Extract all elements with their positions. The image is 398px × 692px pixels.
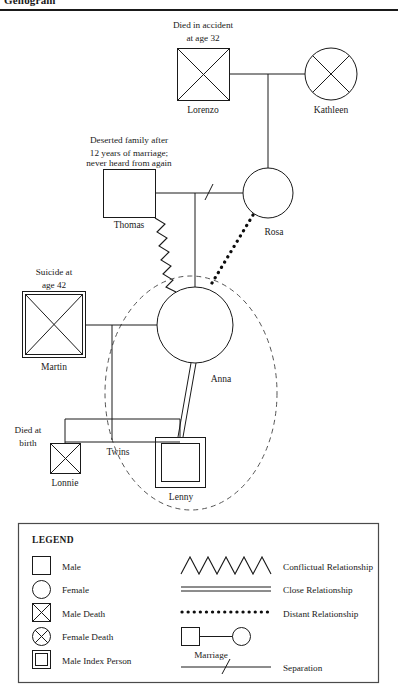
legend-item-conflictual-relationship: Conflictual Relationship xyxy=(181,557,373,574)
legend-item-label: Male Index Person xyxy=(62,656,132,666)
circle-icon xyxy=(157,287,233,363)
legend-item-label: Female Death xyxy=(62,632,114,642)
person-label: Anna xyxy=(211,374,232,384)
legend-item-marriage: Marriage xyxy=(182,628,251,661)
person-note-line: age 42 xyxy=(42,280,67,290)
legend-item-label: Male Death xyxy=(62,609,106,619)
square-icon xyxy=(33,557,51,575)
legend-item-female: Female xyxy=(33,581,90,599)
double-square-icon-inner xyxy=(162,444,200,482)
genogram-page: Genogram Died in accident at age 32 Lore… xyxy=(0,0,398,692)
zigzag-line-icon xyxy=(181,557,271,574)
double-square-icon-inner xyxy=(36,654,48,666)
person-label: Rosa xyxy=(265,227,285,237)
legend-item-separation: Separation xyxy=(181,659,323,674)
dotted-line-icon-rosa-anna xyxy=(209,215,253,288)
person-label: Lenny xyxy=(169,492,194,502)
legend-item-close-relationship: Close Relationship xyxy=(181,585,353,595)
person-label: Martin xyxy=(41,362,67,372)
legend-item-distant-relationship: Distant Relationship xyxy=(182,609,359,619)
circle-icon xyxy=(33,581,51,599)
person-note-line: never heard from again xyxy=(86,158,172,168)
legend-item-label: Female xyxy=(62,585,89,595)
legend-title: LEGEND xyxy=(32,535,74,545)
person-note-line: 12 years of marriage; xyxy=(90,148,168,158)
person-note-line: at age 32 xyxy=(186,33,220,43)
person-rosa: Rosa xyxy=(243,168,293,237)
person-note-line: Suicide at xyxy=(36,267,73,277)
person-martin: Suicide at age 42 Martin xyxy=(23,267,86,372)
circle-icon xyxy=(243,168,293,218)
person-lenny: Lenny xyxy=(156,438,206,503)
circle-icon xyxy=(233,628,251,646)
person-lorenzo: Died in accident at age 32 Lorenzo xyxy=(173,20,234,115)
person-note-line: Died at xyxy=(15,425,42,435)
person-lonnie: Died at birth Lonnie xyxy=(15,425,81,488)
person-thomas: Deserted family after 12 years of marria… xyxy=(86,135,172,230)
legend-item-male-death: Male Death xyxy=(33,604,106,622)
person-label: Lorenzo xyxy=(187,105,219,115)
separation-slash-icon xyxy=(205,184,213,200)
person-note-line: birth xyxy=(19,438,37,448)
twins-annotation: Twins xyxy=(106,447,129,457)
legend-item-male-index-person: Male Index Person xyxy=(33,651,132,669)
person-label: Thomas xyxy=(114,220,145,230)
person-note-line: Died in accident xyxy=(173,20,234,30)
person-label: Lonnie xyxy=(52,478,79,488)
double-square-icon-outer xyxy=(156,438,206,488)
legend-item-label: Separation xyxy=(283,663,323,673)
legend-item-label: Conflictual Relationship xyxy=(283,562,373,572)
square-icon xyxy=(182,628,200,646)
genogram-diagram: Died in accident at age 32 Lorenzo Kathl… xyxy=(0,0,398,692)
legend-item-label: Close Relationship xyxy=(283,585,353,595)
legend-item-label: Marriage xyxy=(194,650,228,660)
legend: LEGEND Male Female Male Death Female xyxy=(19,524,379,683)
person-note-line: Deserted family after xyxy=(90,135,168,145)
person-kathleen: Kathleen xyxy=(305,48,357,115)
legend-item-male: Male xyxy=(33,557,81,575)
legend-item-female-death: Female Death xyxy=(33,628,114,646)
legend-item-label: Male xyxy=(62,562,81,572)
square-icon xyxy=(104,170,156,218)
person-label: Kathleen xyxy=(314,105,349,115)
legend-item-label: Distant Relationship xyxy=(283,609,359,619)
